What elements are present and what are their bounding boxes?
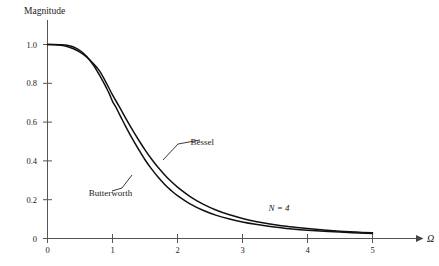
x-tick-label-1: 1 — [110, 245, 114, 255]
y-axis-title: Magnitude — [24, 6, 65, 16]
y-tick-label-0.2: 0.2 — [26, 195, 37, 205]
y-tick-label-0.4: 0.4 — [26, 156, 37, 166]
x-tick-label-0: 0 — [45, 245, 49, 255]
filter-order-annotation: N = 4 — [268, 203, 291, 213]
y-tick-label-0.6: 0.6 — [26, 117, 37, 127]
y-tick-label-0: 0 — [33, 234, 37, 244]
chart-background — [0, 0, 439, 266]
x-tick-label-3: 3 — [240, 245, 244, 255]
x-tick-label-2: 2 — [175, 245, 179, 255]
y-tick-label-0.8: 0.8 — [26, 78, 37, 88]
x-axis-title: Ω — [427, 233, 434, 244]
magnitude-response-chart: Magnitude Ω 0 0.2 0.4 0.6 0.8 1.0 0 1 2 … — [0, 0, 439, 266]
x-tick-label-5: 5 — [370, 245, 374, 255]
butterworth-label: Butterworth — [89, 188, 133, 198]
y-tick-label-1.0: 1.0 — [26, 40, 37, 50]
bessel-label: Bessel — [191, 137, 215, 147]
